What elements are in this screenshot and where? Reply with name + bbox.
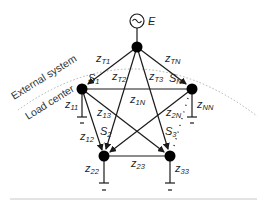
label-z23: z23 <box>130 157 146 171</box>
label-zNN: zNN <box>196 98 214 112</box>
node-S1 <box>77 84 88 95</box>
label-SN: SN <box>169 72 182 86</box>
label-S3: S3 <box>165 125 177 139</box>
node-S2 <box>99 151 110 162</box>
network-diagram: E External system Load center S1 SN S <box>0 0 266 202</box>
label-z2N: z2N <box>165 106 182 120</box>
label-z13: z13 <box>96 106 112 120</box>
label-zT1: zT1 <box>95 52 110 66</box>
source-label: E <box>148 15 156 27</box>
label-z12: z12 <box>79 130 95 144</box>
label-zT2: zT2 <box>111 70 127 84</box>
ac-generator-icon <box>130 14 144 28</box>
label-S1: S1 <box>88 72 100 86</box>
label-zTN: zTN <box>164 52 181 66</box>
label-z33: z33 <box>174 162 190 176</box>
node-SN <box>187 84 198 95</box>
node-S3 <box>165 151 176 162</box>
node-T <box>132 42 143 53</box>
label-z1N: z1N <box>129 93 146 107</box>
label-zT3: zT3 <box>148 70 164 84</box>
label-z22: z22 <box>84 162 100 176</box>
label-S2: S2 <box>100 125 112 139</box>
label-z11: z11 <box>64 98 78 112</box>
